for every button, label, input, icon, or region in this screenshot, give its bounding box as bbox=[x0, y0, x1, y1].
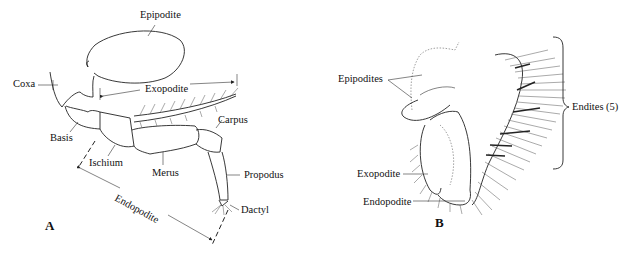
label-coxa: Coxa bbox=[13, 79, 35, 90]
label-propodus: Propodus bbox=[244, 170, 284, 181]
label-merus: Merus bbox=[152, 168, 179, 179]
panel-b-letter: B bbox=[435, 215, 444, 231]
panel-b-drawing bbox=[388, 37, 569, 215]
label-endites: Endites (5) bbox=[572, 102, 618, 113]
label-dactyl: Dactyl bbox=[241, 205, 269, 216]
panel-a-letter: A bbox=[45, 218, 54, 234]
label-basis: Basis bbox=[50, 133, 73, 144]
label-endopodite-b: Endopodite bbox=[363, 197, 411, 208]
label-epipodite: Epipodite bbox=[140, 10, 181, 21]
appendage-diagram bbox=[0, 0, 634, 253]
label-ischium: Ischium bbox=[89, 158, 123, 169]
label-exopodite: Exopodite bbox=[145, 84, 188, 95]
label-exopodite-b: Exopodite bbox=[357, 169, 400, 180]
label-epipodites: Epipodites bbox=[338, 74, 383, 85]
label-carpus: Carpus bbox=[218, 115, 248, 126]
